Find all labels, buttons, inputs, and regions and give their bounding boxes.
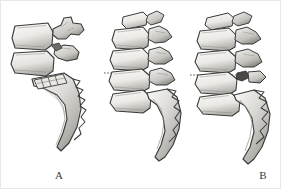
vertebra-body-lower <box>11 51 54 76</box>
vertebra-3 <box>195 49 262 73</box>
vertebra-2 <box>112 26 172 50</box>
spine-illustration-b <box>91 1 191 189</box>
figure-frame: A <box>0 0 281 189</box>
vertebra-5 <box>197 93 240 116</box>
vertebra-4 <box>109 68 175 92</box>
panel-c: C <box>182 1 281 189</box>
vertebra-2 <box>197 27 261 51</box>
panel-label-a: A <box>49 169 69 181</box>
spine-illustration-a <box>1 1 101 189</box>
vertebra-5 <box>110 90 151 113</box>
spine-illustration-c <box>182 1 281 189</box>
sacrum <box>147 89 181 161</box>
panel-a: A <box>1 1 101 189</box>
vertebra-body-upper <box>12 23 53 50</box>
spinous-process-upper <box>53 17 84 39</box>
panel-b: B <box>91 1 191 189</box>
sacrum <box>234 90 270 164</box>
vertebra-3 <box>110 47 173 71</box>
